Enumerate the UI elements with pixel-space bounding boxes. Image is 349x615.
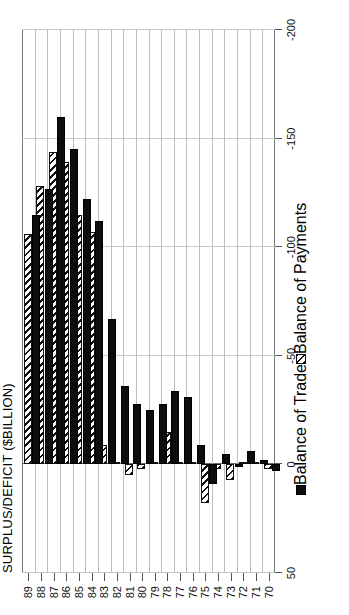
category-tick-label: 89 [22, 586, 34, 598]
category-tick [167, 573, 168, 581]
bar-solid-81 [133, 404, 141, 465]
plot-area: 500-50-100-150-200 707172737475767778798… [22, 30, 275, 573]
category-tick [243, 573, 244, 581]
category-band-line [186, 30, 187, 573]
category-tick [231, 573, 232, 581]
legend-label: Balance of Trade [292, 364, 309, 485]
bar-hatched-75 [201, 464, 209, 503]
category-band-line [212, 30, 213, 573]
category-tick-label: 83 [98, 586, 110, 598]
category-tick-label: 86 [60, 586, 72, 598]
category-tick [117, 573, 118, 581]
category-tick [269, 573, 270, 581]
bar-solid-84 [95, 221, 103, 464]
category-tick-label: 88 [35, 586, 47, 598]
bar-solid-73 [235, 464, 243, 466]
bar-solid-71 [260, 460, 268, 464]
bar-hatched-73 [226, 464, 234, 479]
category-tick-label: 81 [124, 586, 136, 598]
category-tick [256, 573, 257, 581]
value-tick [275, 572, 282, 573]
category-tick [79, 573, 80, 581]
category-band-line [149, 30, 150, 573]
category-band-line [161, 30, 162, 573]
bar-hatched-70 [264, 464, 272, 468]
category-tick-label: 71 [250, 586, 262, 598]
bar-solid-85 [83, 199, 91, 464]
category-tick [28, 573, 29, 581]
bar-hatched-80 [137, 464, 145, 468]
value-tick [275, 138, 282, 139]
category-tick-label: 73 [225, 586, 237, 598]
category-tick [41, 573, 42, 581]
bar-solid-86 [70, 149, 78, 464]
bar-solid-80 [146, 410, 154, 464]
bar-solid-76 [197, 445, 205, 465]
category-tick-label: 70 [263, 586, 275, 598]
category-tick-label: 87 [48, 586, 60, 598]
figure-page: SURPLUS/DEFICIT ($BILLION) 500-50-100-15… [0, 0, 349, 615]
category-tick [54, 573, 55, 581]
category-tick-label: 79 [149, 586, 161, 598]
bar-solid-75 [209, 464, 217, 484]
category-band-line [111, 30, 112, 573]
legend: Balance of TradeBalance of Payments [292, 0, 310, 615]
category-band-line [174, 30, 175, 573]
legend-label: Balance of Payments [292, 203, 309, 354]
category-tick-label: 77 [174, 586, 186, 598]
value-axis-title: SURPLUS/DEFICIT ($BILLION) [0, 383, 15, 573]
bar-solid-87 [57, 117, 65, 465]
bar-solid-77 [184, 397, 192, 464]
solid-square-icon [296, 485, 306, 495]
category-band-line [262, 30, 263, 573]
bar-solid-83 [108, 319, 116, 465]
bar-solid-70 [272, 464, 280, 471]
category-tick-label: 85 [73, 586, 85, 598]
category-tick [193, 573, 194, 581]
bar-solid-82 [121, 386, 129, 464]
bar-solid-79 [159, 404, 167, 465]
category-tick [218, 573, 219, 581]
legend-item: Balance of Trade [292, 364, 310, 495]
bar-hatched-81 [125, 464, 133, 475]
category-band-line [224, 30, 225, 573]
value-tick [275, 355, 282, 356]
category-tick-label: 84 [86, 586, 98, 598]
category-tick [142, 573, 143, 581]
category-tick [66, 573, 67, 581]
category-tick-label: 72 [237, 586, 249, 598]
category-band-line [123, 30, 124, 573]
category-tick [104, 573, 105, 581]
bar-hatched-89 [24, 234, 32, 464]
bar-solid-78 [171, 391, 179, 465]
category-tick-label: 75 [199, 586, 211, 598]
category-tick [92, 573, 93, 581]
category-tick [205, 573, 206, 581]
category-tick [180, 573, 181, 581]
legend-item: Balance of Payments [292, 203, 310, 364]
bar-solid-89 [32, 215, 40, 465]
category-tick [130, 573, 131, 581]
bar-solid-74 [222, 454, 230, 465]
category-tick-label: 80 [136, 586, 148, 598]
value-tick [275, 246, 282, 247]
category-tick-label: 74 [212, 586, 224, 598]
category-band-line [237, 30, 238, 573]
value-axis-line [274, 30, 275, 573]
category-tick-label: 82 [111, 586, 123, 598]
value-tick [275, 29, 282, 30]
category-band-line [250, 30, 251, 573]
hatched-square-icon [296, 354, 306, 364]
category-band-line [136, 30, 137, 573]
category-tick-label: 78 [161, 586, 173, 598]
category-tick-label: 76 [187, 586, 199, 598]
category-tick [155, 573, 156, 581]
bar-solid-72 [247, 451, 255, 464]
chart-canvas: SURPLUS/DEFICIT ($BILLION) 500-50-100-15… [0, 0, 349, 615]
bar-solid-88 [45, 189, 53, 465]
